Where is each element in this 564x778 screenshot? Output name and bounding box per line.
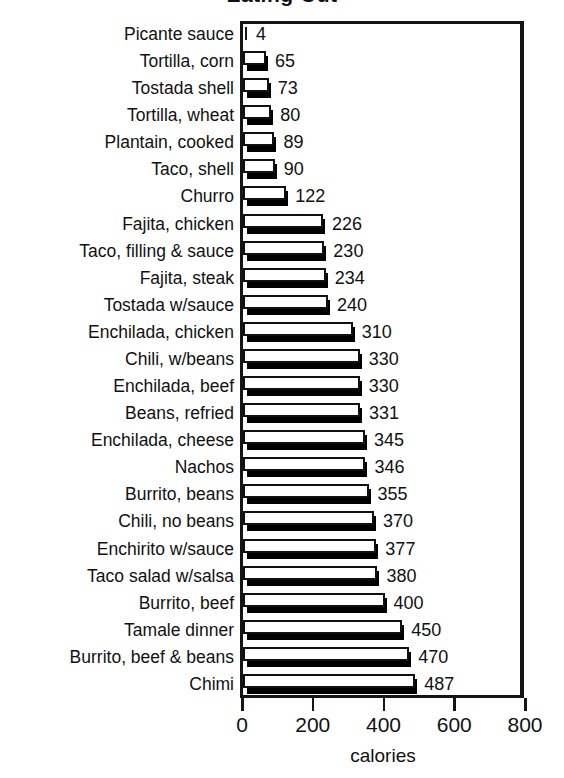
category-label: Nachos [175,454,234,481]
bar-value-label: 346 [365,455,404,479]
x-axis-tick [383,698,386,711]
bar-row: Picante sauce4 [0,21,564,48]
bar-value-label: 400 [385,591,424,615]
bar-value-label: 230 [324,239,363,263]
bar-face [243,186,286,200]
category-label: Burrito, beans [125,481,234,508]
bar-value-label: 370 [374,509,413,533]
bar-face [243,78,269,92]
bar: 345 [243,430,365,451]
bar: 450 [243,620,402,641]
bar-face [243,241,324,255]
bar-value-label: 73 [269,76,298,100]
bar: 89 [243,132,274,153]
bar-face [243,457,365,471]
bar-face [243,430,365,444]
bar: 355 [243,484,369,505]
category-label: Churro [181,183,235,210]
horizontal-bar-chart: Eating Out Picante sauce4Tortilla, corn6… [0,0,564,778]
bar-row: Burrito, beef & beans470 [0,644,564,671]
bar-row: Taco, shell90 [0,156,564,183]
bar-row: Plantain, cooked89 [0,129,564,156]
x-axis-tick [524,698,527,711]
bar-value-label: 234 [326,266,365,290]
x-axis-ticks [0,698,564,712]
bar-face [243,349,360,363]
bar-face [243,132,274,146]
bar: 73 [243,78,269,99]
x-axis-tick-label: 600 [437,712,472,738]
bar: 4 [243,24,246,45]
bar-face [243,268,326,282]
bar: 331 [243,403,360,424]
bar-row: Enchilada, beef330 [0,373,564,400]
bar-value-label: 470 [409,645,448,669]
bar-face [243,105,271,119]
bar-face [243,295,328,309]
x-axis-tick-label: 400 [366,712,401,738]
bar-face [243,159,275,173]
category-label: Enchilada, chicken [88,319,234,346]
bar: 330 [243,349,360,370]
bar-value-label: 90 [275,157,304,181]
x-axis-tick-labels: 0200400600800 [0,712,564,738]
bar: 226 [243,214,323,235]
bar-face [243,593,385,607]
bar-row: Taco salad w/salsa380 [0,563,564,590]
bar-row: Fajita, steak234 [0,265,564,292]
bar-value-label: 487 [415,672,454,696]
category-label: Enchilada, cheese [91,427,234,454]
bar: 80 [243,105,271,126]
bar-row: Chili, w/beans330 [0,346,564,373]
category-label: Beans, refried [125,400,234,427]
chart-title: Eating Out [0,0,564,7]
category-label: Picante sauce [124,21,234,48]
x-axis-tick-label: 800 [507,712,542,738]
x-axis-tick [241,698,244,711]
bar: 90 [243,159,275,180]
bar-value-label: 122 [286,184,325,208]
bar: 230 [243,241,324,262]
bar-face [243,620,402,634]
bar-value-label: 355 [369,482,408,506]
bar-value-label: 331 [360,401,399,425]
bar-value-label: 310 [353,320,392,344]
bar-row: Enchilada, chicken310 [0,319,564,346]
x-axis-tick [312,698,315,711]
bar-row: Enchilada, cheese345 [0,427,564,454]
bar-value-label: 450 [402,618,441,642]
bar-row: Taco, filling & sauce230 [0,238,564,265]
category-label: Plantain, cooked [105,129,234,156]
bar: 487 [243,674,415,695]
category-label: Chili, w/beans [125,346,234,373]
category-label: Taco, filling & sauce [79,238,234,265]
bar-face [243,484,369,498]
category-label: Chili, no beans [118,508,234,535]
bar: 330 [243,376,360,397]
bar: 122 [243,186,286,207]
bar-row: Tortilla, wheat80 [0,102,564,129]
bar-face [243,674,415,688]
bar: 380 [243,566,377,587]
category-label: Enchirito w/sauce [97,536,234,563]
bar-face [243,51,266,65]
category-label: Taco salad w/salsa [87,563,234,590]
bar-row: Enchirito w/sauce377 [0,536,564,563]
bar-value-label: 226 [323,212,362,236]
x-axis-title: calories [241,744,525,768]
bar-row: Churro122 [0,183,564,210]
bar-value-label: 380 [377,564,416,588]
category-label: Tortilla, corn [140,48,234,75]
bar-value-label: 345 [365,428,404,452]
bar-row: Nachos346 [0,454,564,481]
category-label: Enchilada, beef [113,373,234,400]
category-label: Taco, shell [151,156,234,183]
category-label: Tortilla, wheat [127,102,234,129]
bar-value-label: 89 [274,130,303,154]
bar: 377 [243,539,376,560]
bar: 370 [243,511,374,532]
x-axis-tick-label: 0 [236,712,248,738]
category-label: Chimi [189,671,234,698]
bar-value-label: 80 [271,103,300,127]
bar-face [243,403,360,417]
